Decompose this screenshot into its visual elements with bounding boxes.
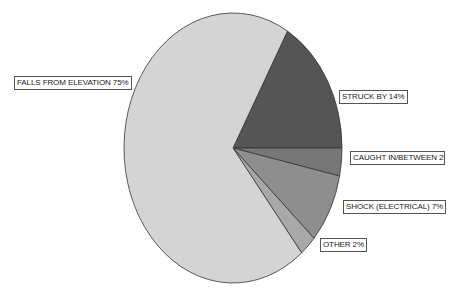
label-shock-electrical: SHOCK (ELECTRICAL) 7%: [343, 200, 446, 214]
label-falls-from-elevation: FALLS FROM ELEVATION 75%: [14, 76, 132, 90]
label-struck-by: STRUCK BY 14%: [339, 90, 408, 104]
pie-chart: [0, 0, 456, 297]
label-caught-in-between: CAUGHT IN/BETWEEN 2%: [350, 151, 445, 165]
label-other: OTHER 2%: [320, 238, 367, 252]
